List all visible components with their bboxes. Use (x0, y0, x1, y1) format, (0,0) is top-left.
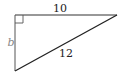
triangle-diagram: 10 b 12 (0, 0, 123, 78)
top-side-label: 10 (53, 2, 67, 15)
triangle (15, 15, 117, 71)
left-side-label: b (7, 36, 14, 49)
hypotenuse-label: 12 (59, 47, 73, 60)
right-angle-marker (15, 15, 23, 23)
hypotenuse (15, 15, 117, 71)
